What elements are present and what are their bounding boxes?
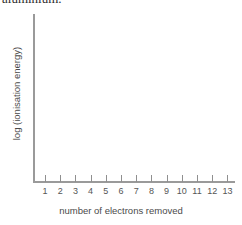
x-axis-tick-label: 2 [58, 186, 63, 197]
x-axis-tick-label: 7 [134, 186, 139, 197]
plot-area[interactable] [35, 14, 235, 181]
x-axis-tick-label: 10 [177, 186, 187, 197]
x-axis-tick-label: 13 [222, 186, 232, 197]
x-axis-tick-label: 3 [73, 186, 78, 197]
x-axis-title: number of electrons removed [0, 205, 242, 216]
x-axis-tick-label: 8 [149, 186, 154, 197]
x-axis-tick-labels: 12345678910111213 [33, 186, 235, 198]
caption-text: aluminium. [2, 0, 62, 7]
x-axis-tick-label: 5 [103, 186, 108, 197]
x-axis-tick-label: 6 [118, 186, 123, 197]
x-axis-tick-label: 1 [42, 186, 47, 197]
graph-screenshot: aluminium. 12345678910111213 number of e… [0, 0, 242, 225]
x-axis-tick-label: 12 [207, 186, 217, 197]
x-axis-tick-label: 11 [192, 186, 201, 197]
x-axis-tick-label: 9 [164, 186, 169, 197]
x-axis-tick-label: 4 [88, 186, 93, 197]
y-axis-title: log (ionisation energy) [11, 29, 22, 159]
